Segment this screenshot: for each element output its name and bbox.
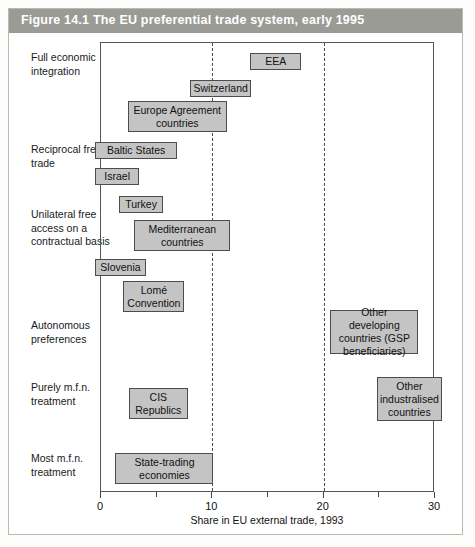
data-box-label: EEA: [265, 55, 286, 68]
data-box-label: Europe Agreement countries: [132, 104, 223, 130]
figure-header-text: Figure 14.1 The EU preferential trade sy…: [21, 13, 364, 27]
figure-header: Figure 14.1 The EU preferential trade sy…: [9, 9, 462, 33]
data-box: Other industralised countries: [377, 377, 442, 421]
x-tick-0: [100, 492, 101, 498]
x-tick-20: [323, 492, 324, 498]
x-tick-15: [267, 492, 268, 497]
category-label-purely-mfn-treatment: Purely m.f.n. treatment: [31, 381, 111, 408]
data-box-label: State-trading economies: [119, 456, 209, 482]
data-box: Lomé Convention: [123, 281, 184, 312]
figure-title: The EU preferential trade system, early …: [93, 13, 364, 27]
data-box: State-trading economies: [115, 453, 213, 484]
x-tick-30: [434, 492, 435, 498]
data-box: EEA: [250, 53, 301, 70]
x-tick-label-10: 10: [205, 500, 217, 512]
figure-card: Figure 14.1 The EU preferential trade sy…: [8, 8, 463, 535]
x-tick-label-30: 30: [428, 500, 440, 512]
x-axis-title: Share in EU external trade, 1993: [100, 514, 434, 526]
data-box: CIS Republics: [129, 388, 188, 419]
figure-number: Figure 14.1: [21, 13, 89, 27]
data-box: Other developing countries (GSP benefici…: [330, 310, 418, 354]
data-box: Mediterranean countries: [134, 220, 230, 251]
data-box-label: Slovenia: [100, 261, 140, 274]
x-tick-25: [378, 492, 379, 497]
data-box-label: Switzerland: [194, 82, 248, 95]
data-box-label: Israel: [104, 170, 130, 183]
data-box-label: Other industralised countries: [380, 380, 439, 419]
category-label-unilateral-free-access: Unilateral free access on a contractual …: [31, 208, 111, 249]
x-tick-5: [156, 492, 157, 497]
x-tick-10: [211, 492, 212, 498]
data-box: Europe Agreement countries: [128, 101, 227, 132]
data-box: Baltic States: [95, 142, 176, 159]
category-label-full-economic-integration: Full economic integration: [31, 51, 111, 78]
data-box-label: CIS Republics: [133, 391, 184, 417]
data-box-label: Baltic States: [107, 144, 165, 157]
x-tick-label-20: 20: [317, 500, 329, 512]
data-box-label: Turkey: [125, 198, 157, 211]
data-box: Slovenia: [95, 259, 145, 276]
category-label-most-mfn-treatment: Most m.f.n. treatment: [31, 452, 111, 479]
gridline-20: [324, 43, 325, 491]
plot-area: EEASwitzerlandEurope Agreement countries…: [100, 42, 434, 492]
data-box: Turkey: [119, 196, 164, 213]
data-box-label: Lomé Convention: [127, 284, 180, 310]
data-box-label: Mediterranean countries: [138, 223, 226, 249]
x-axis: 0102030: [100, 492, 434, 493]
data-box: Switzerland: [190, 80, 251, 97]
data-box-label: Other developing countries (GSP benefici…: [334, 306, 414, 358]
data-box: Israel: [95, 168, 138, 185]
category-label-autonomous-preferences: Autonomous preferences: [31, 319, 111, 346]
x-tick-label-0: 0: [97, 500, 103, 512]
